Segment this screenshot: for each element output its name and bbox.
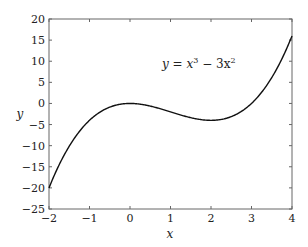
y-tick-label: 20 — [31, 13, 45, 26]
x-tick-label: 1 — [167, 212, 174, 225]
annotation-middle: − 3x — [198, 57, 230, 71]
tick-labels: −2−10123420151050−5−10−15−20−25 — [22, 13, 296, 225]
x-tick-label: 4 — [289, 212, 296, 225]
x-tick-label: −1 — [81, 212, 97, 225]
x-tick-label: 2 — [208, 212, 215, 225]
y-tick-label: −25 — [22, 203, 45, 216]
y-tick-label: −10 — [22, 140, 45, 153]
x-tick-label: 3 — [248, 212, 255, 225]
plot-frame — [49, 19, 292, 209]
annotation-exponent-2: 2 — [230, 56, 235, 65]
y-tick-label: −15 — [22, 161, 45, 174]
chart: −2−10123420151050−5−10−15−20−25 x y y = … — [0, 0, 308, 247]
y-axis-label: y — [16, 107, 24, 121]
y-tick-label: 0 — [38, 97, 45, 110]
plot-border — [49, 19, 292, 209]
x-axis-label: x — [167, 227, 174, 241]
axis-ticks — [49, 19, 292, 209]
equation-annotation: y = x3 − 3x2 — [161, 56, 236, 71]
annotation-lhs: y = x — [161, 57, 193, 71]
y-tick-label: 5 — [38, 76, 45, 89]
x-tick-label: 0 — [127, 212, 134, 225]
y-tick-label: −20 — [22, 182, 45, 195]
y-tick-label: 15 — [31, 34, 45, 47]
y-tick-label: 10 — [31, 55, 45, 68]
y-tick-label: −5 — [29, 119, 45, 132]
